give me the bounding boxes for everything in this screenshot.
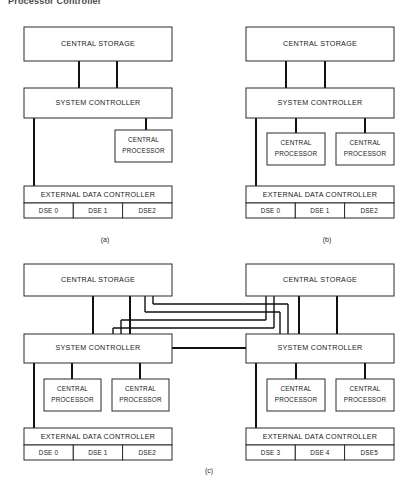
label-b-dse-0: DSE 0 [261,207,281,214]
caption-panel-a: (a) [101,236,110,244]
label-c-left-dse-2: DSE2 [139,449,157,456]
label-c-right-processor-1-line2: PROCESSOR [275,396,318,403]
label-c-right-dse-5: DSE5 [361,449,379,456]
label-c-right-processor-2-line2: PROCESSOR [344,396,387,403]
label-a-system-controller: SYSTEM CONTROLLER [56,98,141,107]
label-c-right-processor-2-line1: CENTRAL [349,385,380,392]
panel-b: CENTRAL STORAGE SYSTEM CONTROLLER CENTRA… [246,27,394,244]
label-c-left-processor-2-line1: CENTRAL [125,385,156,392]
label-c-left-processor-1-line2: PROCESSOR [51,396,94,403]
label-c-right-dse-4: DSE 4 [310,449,330,456]
label-a-central-storage: CENTRAL STORAGE [61,39,135,48]
label-c-left-processor-1-line1: CENTRAL [57,385,88,392]
processor-controller-figure: Processor Controller CENTRAL STORAGE SYS… [0,0,419,486]
label-b-processor-1-line1: CENTRAL [280,139,311,146]
label-b-dse-1: DSE 1 [310,207,330,214]
label-c-left-processor-2-line2: PROCESSOR [119,396,162,403]
label-b-dse-2: DSE2 [361,207,379,214]
label-b-system-controller: SYSTEM CONTROLLER [278,98,363,107]
label-a-dse-0: DSE 0 [39,207,59,214]
label-c-left-dse-0: DSE 0 [39,449,59,456]
label-c-left-system-controller: SYSTEM CONTROLLER [56,343,141,352]
label-c-right-system-controller: SYSTEM CONTROLLER [278,343,363,352]
diagram-canvas: CENTRAL STORAGE SYSTEM CONTROLLER CENTRA… [0,0,419,486]
panel-a: CENTRAL STORAGE SYSTEM CONTROLLER CENTRA… [24,27,172,244]
label-c-right-central-storage: CENTRAL STORAGE [283,275,357,284]
label-a-dse-1: DSE 1 [88,207,108,214]
caption-panel-b: (b) [323,236,332,244]
figure-title: Processor Controller [8,0,102,6]
label-c-left-central-storage: CENTRAL STORAGE [61,275,135,284]
label-a-external-data-controller: EXTERNAL DATA CONTROLLER [41,190,156,199]
label-b-external-data-controller: EXTERNAL DATA CONTROLLER [263,190,378,199]
label-c-left-external-data-controller: EXTERNAL DATA CONTROLLER [41,432,156,441]
caption-panel-c: (c) [205,467,213,475]
label-c-left-dse-1: DSE 1 [88,449,108,456]
label-b-processor-2-line1: CENTRAL [349,139,380,146]
label-c-right-dse-3: DSE 3 [261,449,281,456]
label-c-right-external-data-controller: EXTERNAL DATA CONTROLLER [263,432,378,441]
label-a-dse-2: DSE2 [139,207,157,214]
label-a-processor-1-line2: PROCESSOR [122,147,165,154]
label-b-central-storage: CENTRAL STORAGE [283,39,357,48]
label-c-right-processor-1-line1: CENTRAL [280,385,311,392]
label-a-processor-1-line1: CENTRAL [128,136,159,143]
label-b-processor-2-line2: PROCESSOR [344,150,387,157]
panel-c: CENTRAL STORAGE SYSTEM CONTROLLER CENTRA… [24,264,394,475]
label-b-processor-1-line2: PROCESSOR [275,150,318,157]
